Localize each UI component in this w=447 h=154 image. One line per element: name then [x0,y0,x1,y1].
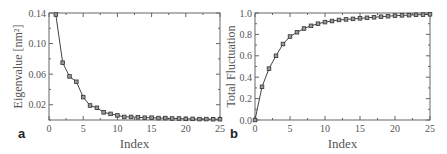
y-tick-label: 0.10 [29,38,47,49]
data-point-marker [205,117,209,121]
data-point-marker [170,117,174,121]
y-tick-label: 0.06 [29,69,47,80]
data-point-marker [302,27,306,31]
plot-frame [255,13,430,120]
data-point-marker [109,112,113,116]
data-point-marker [211,117,215,121]
data-point-marker [358,17,362,21]
x-tick-label: 10 [112,123,122,134]
x-tick-label: 20 [390,123,400,134]
chart-b: 05101520250.00.20.40.60.81.0IndexTotal F… [225,0,447,154]
plot-frame [49,13,220,120]
data-point-marker [400,14,404,18]
x-tick-label: 0 [253,123,258,134]
data-point-marker [61,61,65,65]
data-point-marker [372,15,376,19]
data-point-marker [267,67,271,71]
data-point-marker [88,104,92,108]
data-point-marker [309,24,313,28]
data-point-marker [295,30,299,34]
data-point-marker [68,75,72,79]
y-tick-label: 0.6 [240,50,253,61]
data-point-marker [143,116,147,120]
x-tick-label: 25 [425,123,435,134]
data-point-marker [386,14,390,18]
chart-b-plot: 05101520250.00.20.40.60.81.0IndexTotal F… [225,0,447,154]
chart-a: 05101520250.020.060.100.14IndexEigenvalu… [0,0,225,154]
x-tick-label: 10 [320,123,330,134]
x-tick-label: 15 [147,123,157,134]
y-tick-label: 0.8 [240,29,253,40]
data-point-marker [414,13,418,17]
data-point-marker [351,17,355,21]
y-tick-label: 0.0 [240,115,253,126]
data-point-marker [421,13,425,17]
data-point-marker [75,80,79,84]
data-point-marker [129,115,133,119]
data-point-marker [122,115,126,119]
data-point-marker [365,16,369,20]
data-point-marker [428,12,432,16]
data-point-marker [116,114,120,118]
data-point-marker [163,116,167,120]
data-point-marker [177,117,181,121]
x-tick-label: 20 [181,123,191,134]
y-axis-label: Total Fluctuation [225,25,238,107]
y-tick-label: 0.02 [29,99,47,110]
data-point-marker [316,22,320,26]
data-point-marker [198,117,202,121]
y-tick-label: 0.14 [29,8,47,19]
data-point-marker [136,116,140,120]
y-axis-label: Eigenvalue [nm²] [11,25,25,109]
data-point-marker [344,18,348,22]
x-tick-label: 5 [288,123,293,134]
data-point-marker [191,117,195,121]
y-tick-label: 1.0 [240,8,253,19]
x-axis-label: Index [328,136,358,151]
data-point-marker [337,18,341,22]
data-point-marker [184,117,188,121]
data-point-marker [54,13,58,17]
data-point-marker [393,14,397,18]
x-tick-label: 5 [81,123,86,134]
x-tick-label: 25 [215,123,225,134]
data-point-marker [253,118,257,122]
data-line [56,15,220,120]
data-point-marker [95,106,99,110]
panel-label-a: a [18,126,25,141]
x-tick-label: 0 [47,123,52,134]
data-point-marker [81,95,85,99]
data-point-marker [323,20,327,24]
data-point-marker [218,117,222,121]
data-point-marker [150,116,154,120]
data-point-marker [274,54,278,58]
chart-a-plot: 05101520250.020.060.100.14IndexEigenvalu… [0,0,225,154]
data-line [255,14,430,120]
data-point-marker [157,116,161,120]
y-tick-label: 0.2 [240,93,253,104]
data-point-marker [288,35,292,39]
data-point-marker [281,42,285,46]
x-tick-label: 15 [355,123,365,134]
x-axis-label: Index [120,136,150,151]
data-point-marker [102,111,106,115]
data-point-marker [330,19,334,23]
y-tick-label: 0.4 [240,72,253,83]
data-point-marker [407,13,411,17]
data-point-marker [260,85,264,89]
panel-label-b: b [230,126,238,141]
data-point-marker [379,15,383,19]
